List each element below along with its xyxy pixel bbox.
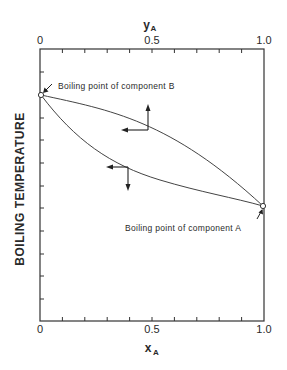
- liquid-curve: [41, 95, 263, 206]
- vapor-curve: [41, 95, 263, 206]
- top-tick-05: 0.5: [144, 34, 159, 46]
- label-point-a: Boiling point of component A: [125, 223, 241, 233]
- point-b-marker: [38, 92, 43, 97]
- bottom-tick-05: 0.5: [144, 323, 159, 335]
- top-tick-1: 1.0: [256, 34, 271, 46]
- bottom-tick-1: 1.0: [256, 323, 271, 335]
- vapor-direction-arrows: [121, 104, 151, 133]
- top-axis-title: yA: [143, 18, 156, 33]
- label-point-b: Boiling point of component B: [58, 81, 175, 91]
- top-tick-0: 0: [37, 34, 43, 46]
- bottom-axis-title: xA: [145, 341, 159, 357]
- liquid-direction-arrows: [106, 165, 131, 192]
- diagram-canvas: Boiling point of component B Boiling poi…: [0, 0, 287, 370]
- phase-diagram: Boiling point of component B Boiling poi…: [0, 0, 287, 370]
- point-a-marker: [260, 203, 265, 208]
- bottom-tick-0: 0: [37, 323, 43, 335]
- left-axis-title: BOILING TEMPERATURE: [13, 112, 27, 265]
- pointer-arrow-b: [43, 84, 52, 93]
- pointer-arrow-a: [257, 209, 263, 219]
